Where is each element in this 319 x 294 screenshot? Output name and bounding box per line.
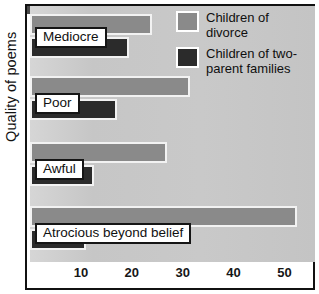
legend-label-line-1: Children of: [206, 10, 269, 25]
legend-swatch-children-of-two-parent-families: [176, 47, 199, 68]
y-axis-label: Quality of poems: [0, 0, 22, 142]
legend-item-children-of-divorce: Children of divorce: [176, 10, 314, 40]
x-tick-label-30: 30: [175, 265, 189, 280]
legend-label-children-of-two-parent-families: Children of two- parent families: [206, 46, 297, 76]
legend-label-line-1: Children of two-: [206, 46, 297, 61]
category-label-atrocious-beyond-belief: Atrocious beyond belief: [35, 223, 191, 244]
x-tick-label-40: 40: [226, 265, 240, 280]
category-label-poor: Poor: [35, 93, 80, 114]
legend: Children of divorce Children of two- par…: [176, 10, 314, 82]
x-axis: 10 20 30 40 50: [30, 262, 315, 288]
x-tick-label-50: 50: [277, 265, 291, 280]
x-tick-label-10: 10: [74, 265, 88, 280]
legend-label-line-2: parent families: [206, 61, 297, 76]
legend-swatch-children-of-divorce: [176, 11, 199, 32]
x-tick-label-20: 20: [125, 265, 139, 280]
category-label-mediocre: Mediocre: [35, 27, 107, 48]
legend-label-children-of-divorce: Children of divorce: [206, 10, 269, 40]
category-label-awful: Awful: [35, 159, 84, 180]
legend-label-line-2: divorce: [206, 25, 269, 40]
chart-figure: Quality of poems Mediocre Poor Awful Atr…: [0, 0, 319, 294]
legend-item-children-of-two-parent-families: Children of two- parent families: [176, 46, 314, 76]
